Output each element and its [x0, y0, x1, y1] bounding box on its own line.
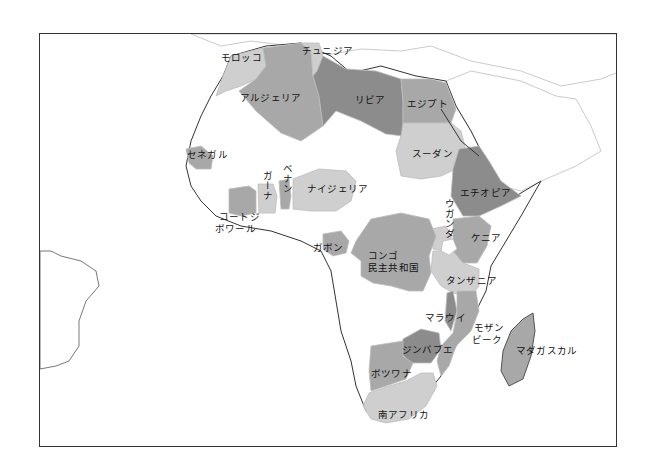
africa-map [40, 34, 617, 447]
label-nigeria: ナイジェリア [307, 183, 368, 194]
label-libya: リビア [355, 94, 386, 105]
label-senegal: セネガル [187, 149, 228, 160]
label-ghana: ガーナ [262, 171, 273, 201]
label-mozambique-1: モザン [474, 322, 505, 333]
label-uganda: ウガンダ [444, 199, 455, 239]
label-algeria: アルジェリア [240, 92, 301, 103]
label-cote-divoire-1: コートジ [219, 211, 260, 222]
label-gabon: ガボン [313, 242, 344, 253]
south-america-landmass [40, 251, 99, 369]
label-morocco: モロッコ [221, 52, 262, 63]
label-ethiopia: エチオピア [460, 187, 511, 198]
label-drc-2: 民主共和国 [368, 262, 419, 273]
label-benin: ベナン [282, 164, 293, 194]
label-drc-1: コンゴ [368, 250, 399, 261]
label-zimbabwe: ジンバブエ [402, 344, 453, 355]
label-kenya: ケニア [471, 232, 502, 243]
label-tunisia: チュニジア [302, 45, 353, 56]
label-malawi: マラウイ [425, 312, 466, 323]
label-egypt: エジプト [407, 98, 448, 109]
label-south-africa: 南アフリカ [378, 409, 429, 420]
label-mozambique-2: ビーク [472, 334, 503, 345]
label-tanzania: タンザニア [446, 275, 497, 286]
label-madagascar: マダガスカル [516, 345, 577, 356]
label-botswana: ボツワナ [371, 368, 412, 379]
label-cote-divoire-2: ボワール [215, 223, 256, 234]
map-frame: モロッコ チュニジア アルジェリア リビア エジプト スーダン セネガル ガーナ… [39, 33, 617, 447]
label-sudan: スーダン [412, 148, 453, 159]
